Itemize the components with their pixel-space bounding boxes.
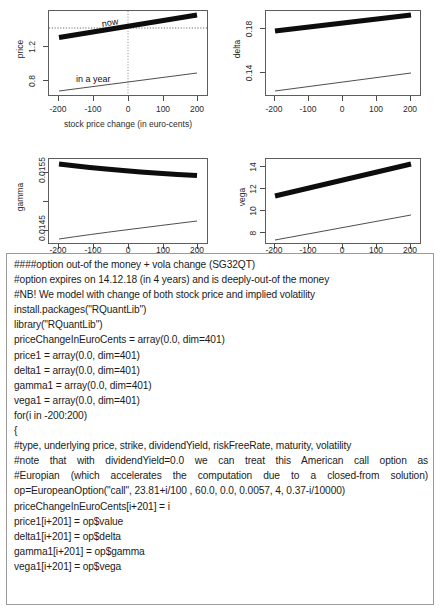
xtick-mark	[308, 96, 309, 101]
panel-vega-plot	[266, 159, 420, 243]
xtick-mark	[274, 96, 275, 101]
xaxis-title: stock price change (in euro-cents)	[58, 119, 198, 129]
ytick-label: 1.2	[27, 35, 37, 59]
code-line: #note that with dividendYield=0.0 we can…	[14, 453, 428, 468]
xtick-label: -100	[294, 104, 322, 114]
panel-price-plot	[49, 11, 207, 95]
xtick-mark	[128, 96, 129, 101]
screenshot-root: 1.2 0.8 price -200 -100 0 100 200 now in…	[0, 0, 441, 612]
code-line: priceChangeInEuroCents[i+201] = i	[14, 499, 428, 514]
code-line: priceChangeInEuroCents = array(0.0, dim=…	[14, 332, 428, 347]
ytick-label: 0.14	[244, 61, 254, 85]
code-line: library("RQuantLib")	[14, 317, 428, 332]
ytick-mark	[260, 166, 265, 167]
code-line: #NB! We model with change of both stock …	[14, 287, 428, 302]
ytick-label: 10	[248, 201, 258, 221]
xtick-label: 0	[114, 104, 142, 114]
plot-grid: 1.2 0.8 price -200 -100 0 100 200 now in…	[0, 0, 441, 252]
ytick-mark	[260, 28, 265, 29]
code-line: #Europian (which accelerates the computa…	[14, 468, 428, 483]
xtick-mark	[376, 96, 377, 101]
ytick-label: 14	[248, 157, 258, 177]
xtick-mark	[410, 96, 411, 101]
xtick-mark	[197, 96, 198, 101]
xtick-label: 0	[328, 104, 356, 114]
ytick-label: 0.0155	[37, 149, 47, 191]
panel-gamma-plot	[49, 159, 207, 243]
panel-vega-frame	[265, 158, 421, 244]
code-line: gamma1[i+201] = op$gamma	[14, 544, 428, 559]
code-line: ####option out-of the money + vola chang…	[14, 257, 428, 272]
code-line: gamma1 = array(0.0, dim=401)	[14, 378, 428, 393]
ytick-label: 0.8	[27, 69, 37, 93]
ytick-mark	[260, 210, 265, 211]
panel-price-frame	[48, 10, 208, 96]
code-line: vega1 = array(0.0, dim=401)	[14, 393, 428, 408]
ytick-mark	[43, 80, 48, 81]
code-line: delta1 = array(0.0, dim=401)	[14, 363, 428, 378]
ytick-mark	[43, 46, 48, 47]
ytick-label: 8	[248, 223, 258, 243]
xtick-label: -200	[260, 104, 288, 114]
panel-delta-plot	[266, 11, 420, 95]
panel-gamma-frame	[48, 158, 208, 244]
code-line: op=EuropeanOption("call", 23.81+i/100 , …	[14, 483, 428, 498]
yaxis-title-delta: delta	[232, 32, 242, 66]
code-line: delta1[i+201] = op$delta	[14, 529, 428, 544]
panel-delta-frame	[265, 10, 421, 96]
ytick-mark	[260, 188, 265, 189]
xtick-mark	[342, 96, 343, 101]
xtick-label: 100	[362, 104, 390, 114]
yaxis-title-vega: vega	[237, 180, 247, 214]
xtick-label: 200	[396, 104, 424, 114]
ytick-mark	[43, 201, 48, 202]
yaxis-title-price: price	[15, 32, 25, 66]
xtick-mark	[93, 96, 94, 101]
ytick-mark	[260, 232, 265, 233]
xtick-label: -200	[44, 104, 72, 114]
code-line: vega1[i+201] = op$vega	[14, 559, 428, 574]
ytick-label: 0.18	[244, 17, 254, 41]
code-line: price1[i+201] = op$value	[14, 514, 428, 529]
code-line: price1 = array(0.0, dim=401)	[14, 348, 428, 363]
code-line: install.packages("RQuantLib")	[14, 302, 428, 317]
code-line: {	[14, 423, 428, 438]
xtick-label: -100	[79, 104, 107, 114]
ytick-mark	[260, 72, 265, 73]
annotation-in-a-year: in a year	[76, 74, 111, 84]
code-line: #option expires on 14.12.18 (in 4 years)…	[14, 272, 428, 287]
xtick-label: 200	[183, 104, 211, 114]
xtick-label: 100	[149, 104, 177, 114]
ytick-label: 0.0145	[37, 207, 47, 249]
code-line: for(i in -200:200)	[14, 408, 428, 423]
xtick-mark	[163, 96, 164, 101]
code-block: ####option out-of the money + vola chang…	[6, 253, 434, 605]
xtick-mark	[58, 96, 59, 101]
ytick-label: 12	[248, 179, 258, 199]
yaxis-title-gamma: gamma	[15, 177, 25, 217]
code-line: #type, underlying price, strike, dividen…	[14, 438, 428, 453]
